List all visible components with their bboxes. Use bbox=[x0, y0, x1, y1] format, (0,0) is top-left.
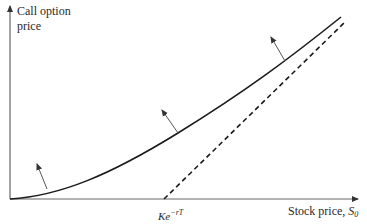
call-option-price-diagram: Call option price Ke−rT Stock price, S0 bbox=[0, 0, 367, 224]
x-axis-symbol-sub: 0 bbox=[354, 210, 358, 219]
strike-exponent: −rT bbox=[170, 208, 183, 217]
y-axis-label: Call option price bbox=[17, 4, 97, 34]
arrow-1 bbox=[37, 164, 47, 189]
x-axis-label-text: Stock price, bbox=[288, 204, 348, 218]
arrow-3 bbox=[271, 37, 285, 61]
direction-arrows bbox=[37, 37, 285, 189]
arrow-2 bbox=[162, 110, 178, 133]
strike-base: Ke bbox=[158, 210, 170, 222]
call-price-curve bbox=[10, 17, 341, 199]
lower-bound-dashed-line bbox=[164, 22, 345, 199]
strike-discount-label: Ke−rT bbox=[158, 205, 183, 224]
x-axis-label: Stock price, S0 bbox=[288, 204, 358, 222]
